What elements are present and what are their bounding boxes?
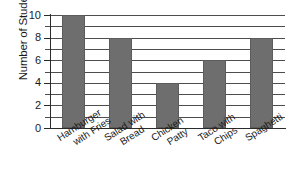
y-tick-label: 8 bbox=[19, 32, 41, 43]
y-tick-label: 2 bbox=[19, 100, 41, 111]
bar bbox=[250, 38, 273, 128]
bar bbox=[156, 83, 179, 128]
y-tick-label: 6 bbox=[19, 55, 41, 66]
bar-chart: Number of Students 0246810 Hamburgerwith… bbox=[0, 0, 293, 185]
x-axis-line bbox=[50, 128, 286, 129]
bar bbox=[62, 15, 85, 128]
gridline bbox=[50, 26, 285, 27]
y-tick-label: 0 bbox=[19, 123, 41, 134]
y-tick-label: 4 bbox=[19, 77, 41, 88]
bar bbox=[203, 60, 226, 128]
y-tick-label: 10 bbox=[19, 10, 41, 21]
y-axis-line bbox=[50, 14, 51, 129]
gridline bbox=[50, 15, 285, 16]
bar bbox=[109, 38, 132, 128]
plot-area bbox=[50, 15, 285, 128]
